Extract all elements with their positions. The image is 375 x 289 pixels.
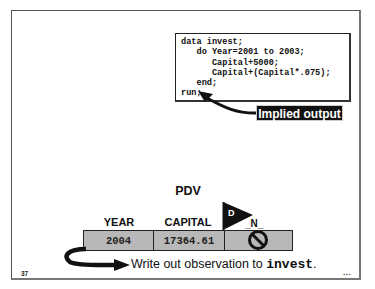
dataset-name: invest [266,257,313,272]
write-text-prefix: Write out observation to [131,257,266,271]
write-text-suffix: . [313,257,316,271]
page-number: 37 [21,270,28,277]
continuation-marker: ... [343,268,351,277]
write-observation-text: Write out observation to invest. [131,257,317,272]
write-arrow-icon [0,0,375,289]
